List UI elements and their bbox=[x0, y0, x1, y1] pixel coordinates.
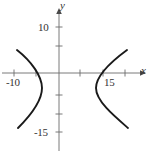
y-tick-label-neg-fifteen: -15 bbox=[34, 126, 48, 138]
hyperbola-figure: -10 15 10 -15 y x bbox=[0, 0, 150, 153]
hyperbola-left-branch bbox=[17, 50, 42, 128]
plot-canvas bbox=[0, 0, 150, 153]
hyperbola-right-branch bbox=[96, 50, 128, 128]
x-axis-label: x bbox=[141, 64, 146, 76]
y-tick-label-ten: 10 bbox=[38, 21, 48, 33]
y-axis-label: y bbox=[60, 0, 65, 11]
x-tick-label-fifteen: 15 bbox=[104, 76, 114, 88]
x-tick-label-neg-ten: -10 bbox=[6, 76, 20, 88]
